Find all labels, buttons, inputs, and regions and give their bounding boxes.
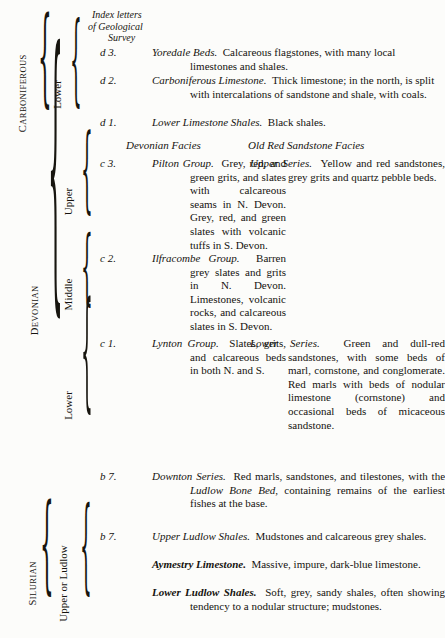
row-c3-index: c 3. — [100, 157, 134, 171]
row-c2-title: Ilfracombe Group. — [152, 252, 240, 264]
row-d1-index: d 1. — [100, 116, 134, 130]
row-d3-title: Yoredale Beds. — [152, 46, 217, 58]
facies-heading-old-red-sandstone: Old Red Sandstone Facies — [248, 139, 364, 151]
era-label-silurian: SILURIAN — [28, 528, 39, 638]
era-carboniferous-rest: ARBONIFEROUS — [18, 54, 28, 125]
row-d1-text: Lower Limestone Shales. Black shales. — [152, 116, 445, 130]
row-d1-body: Black shales. — [268, 116, 326, 128]
era-label-devonian: DEVONIAN — [30, 255, 41, 365]
row-d2-title: Carboniferous Limestone. — [152, 74, 267, 86]
row-b7-upper-ludlow-text: Upper Ludlow Shales. Mudstones and calca… — [152, 530, 445, 544]
row-d2-text: Carboniferous Limestone. Thick limestone… — [152, 74, 445, 101]
brace-silurian-outer: { — [40, 491, 54, 598]
row-b7-downton-emphasis: Ludlow Bone Bed — [190, 484, 275, 496]
row-c1-text-right: Lower Series. Green and dull-red sandsto… — [250, 337, 445, 432]
brace-carboniferous-lower: { — [70, 11, 82, 110]
series-label-devonian-middle: Middle — [63, 260, 74, 330]
era-devonian-initial: D — [29, 327, 40, 335]
row-c3-title: Pilton Group. — [152, 157, 214, 169]
era-devonian-rest: EVONIAN — [30, 285, 40, 327]
row-lower-ludlow-title: Lower Ludlow Shales. — [152, 586, 256, 598]
row-lower-ludlow-text: Lower Ludlow Shales. Soft, grey, sandy s… — [152, 586, 445, 613]
row-c3-right-body: Yellow and red sandstones, grey grits an… — [288, 157, 445, 183]
row-c2-index: c 2. — [100, 252, 134, 266]
row-b7-upper-ludlow-body: Mudstones and calcareous grey shales. — [256, 530, 427, 542]
row-c2-text-left: Ilfracombe Group. Barren grey slates and… — [152, 252, 286, 334]
row-b7-upper-ludlow-title: Upper Ludlow Shales. — [152, 530, 250, 542]
brace-devonian-lower: { — [81, 287, 93, 416]
row-c3-text-right: Upper Series. Yellow and red sandstones,… — [250, 157, 445, 184]
row-aymestry-text: Aymestry Limestone. Massive, impure, dar… — [152, 558, 445, 572]
row-b7-downton-text: Downton Series. Red marls, sandstones, a… — [152, 470, 445, 511]
row-d3-text: Yoredale Beds. Calcareous flagstones, wi… — [152, 46, 445, 73]
brace-devonian-outer: { — [48, 17, 63, 320]
index-letters-line-2: of Geological — [88, 21, 208, 33]
era-silurian-rest: ILURIAN — [28, 561, 38, 599]
era-silurian-initial: S — [27, 599, 38, 605]
brace-devonian-upper: { — [81, 124, 93, 217]
row-d3-index: d 3. — [100, 46, 134, 60]
row-b7-downton-body-a: Red marls, sandstones, and tilestones, w… — [234, 470, 445, 482]
row-b7-downton-title: Downton Series. — [152, 470, 226, 482]
series-label-devonian-lower: Lower — [63, 371, 74, 441]
row-b7-downton-index: b 7. — [100, 470, 134, 484]
row-c3-right-title: Upper Series. — [250, 157, 312, 169]
row-c1-right-title: Lower Series. — [250, 337, 320, 349]
index-letters-line-3: Survey — [108, 32, 208, 44]
row-c1-index: c 1. — [100, 337, 134, 351]
index-letters-heading: Index letters of Geological Survey — [88, 9, 208, 44]
era-label-carboniferous: CARBONIFEROUS — [18, 38, 29, 148]
brace-silurian-upper-ludlow: { — [80, 495, 92, 597]
row-b7-upper-ludlow-index: b 7. — [100, 530, 134, 544]
row-aymestry-title: Aymestry Limestone. — [152, 558, 246, 570]
row-c1-right-body: Green and dull-red sandstones, with some… — [288, 337, 445, 431]
index-letters-line-1: Index letters — [92, 9, 208, 21]
era-carboniferous-initial: C — [17, 125, 28, 132]
row-d2-index: d 2. — [100, 74, 134, 88]
series-label-devonian-upper: Upper — [63, 167, 74, 237]
row-c1-title: Lynton Group. — [152, 337, 219, 349]
row-d1-title: Lower Limestone Shales. — [152, 116, 262, 128]
row-aymestry-body: Massive, impure, dark-blue limestone. — [251, 558, 420, 570]
series-label-silurian-upper-ludlow: Upper or Ludlow — [58, 529, 69, 638]
facies-heading-devonian: Devonian Facies — [126, 139, 201, 151]
